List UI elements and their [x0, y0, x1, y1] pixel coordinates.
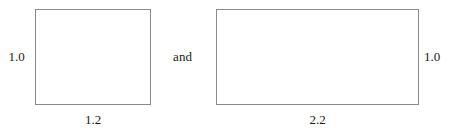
conjunction-label: and: [160, 50, 205, 63]
rectangle-a: [35, 9, 151, 105]
rectangle-a-width-label: 1.2: [35, 113, 151, 126]
rectangle-b-height-label: 1.0: [424, 50, 457, 63]
rectangle-b: [216, 9, 419, 105]
rectangle-b-width-label: 2.2: [216, 113, 419, 126]
rectangle-a-height-label: 1.0: [0, 50, 33, 63]
shape-comparison-figure: 1.0 1.2 and 2.2 1.0: [0, 0, 460, 135]
